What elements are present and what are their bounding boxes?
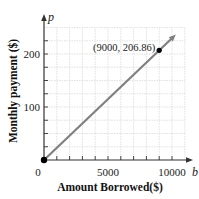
x-variable-label: b — [192, 165, 198, 179]
origin-label: 0 — [35, 166, 41, 178]
x-tick-label: 10000 — [158, 166, 186, 178]
data-point — [157, 48, 162, 53]
x-tick-label: 5000 — [97, 166, 120, 178]
x-axis-arrow-icon — [186, 157, 193, 163]
point-annotation: (9000, 206.86) — [93, 42, 156, 54]
x-axis-title: Amount Borrowed($) — [57, 181, 163, 194]
y-tick-label: 100 — [24, 101, 41, 113]
y-tick-label: 200 — [24, 48, 41, 60]
y-variable-label: p — [47, 10, 54, 24]
y-axis-arrow-icon — [41, 14, 47, 21]
data-point — [41, 157, 47, 163]
y-axis-title: Monthly payment ($) — [7, 39, 20, 143]
chart: p b 0 500010000100200 (9000, 206.86) Amo… — [0, 0, 199, 199]
